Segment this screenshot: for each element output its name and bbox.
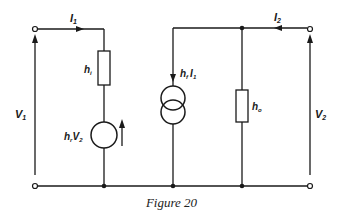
input-top-wire [38, 26, 104, 51]
hfI1-label: hfI1 [180, 68, 197, 80]
figure-caption: Figure 20 [0, 195, 343, 211]
v1-label: V1 [15, 108, 26, 121]
v2-arrow-icon [307, 34, 313, 175]
circuit-diagram: I1 I2 V1 V2 hi ho hrV2 hfI1 [0, 0, 343, 221]
hi-resistor [98, 51, 110, 85]
hi-label: hi [84, 64, 92, 76]
i2-label: I2 [274, 11, 281, 24]
input-terminal-top [33, 27, 38, 32]
hrV2-voltage-source [91, 122, 117, 148]
v1-arrow-icon [32, 34, 38, 175]
v2-label: V2 [315, 108, 326, 121]
hfI1-arrow-icon [170, 74, 176, 82]
input-terminal-bottom [33, 184, 38, 189]
output-terminal-top [308, 27, 313, 32]
voltage-direction-arrow-icon [119, 119, 125, 146]
output-terminal-bottom [308, 184, 313, 189]
i1-arrow-icon [76, 26, 84, 32]
hfI1-current-source [161, 86, 185, 124]
hrV2-label: hrV2 [64, 131, 83, 143]
ho-label: ho [252, 101, 262, 113]
ho-resistor [236, 90, 248, 122]
i2-arrow-icon [274, 25, 282, 31]
i1-label: I1 [70, 12, 77, 25]
junction-dot [102, 184, 107, 189]
